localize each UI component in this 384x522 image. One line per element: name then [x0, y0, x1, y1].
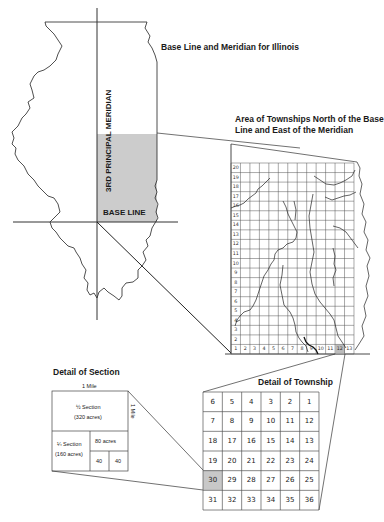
area-row-number: 19 — [231, 175, 240, 180]
area-row-number: 13 — [231, 232, 240, 237]
area-title-line2: Line and East of the Meridian — [235, 125, 353, 136]
area-row-number: 1 — [231, 346, 240, 351]
area-column-number: 2 — [240, 346, 249, 351]
section-cell: 6 — [203, 398, 222, 406]
eighty-acres-label: 80 acres — [95, 438, 116, 444]
section-side-label: 1 Mile — [130, 404, 136, 419]
base-line-label: BASE LINE — [103, 208, 146, 217]
section-cell: 8 — [222, 417, 241, 425]
area-row-number: 4 — [231, 318, 240, 323]
area-row-number: 17 — [231, 194, 240, 199]
section-cell: 32 — [222, 496, 241, 504]
area-row-number: 16 — [231, 203, 240, 208]
area-column-number: 10 — [316, 346, 325, 351]
section-cell: 16 — [242, 437, 261, 445]
section-cell: 5 — [222, 398, 241, 406]
section-cell: 4 — [242, 398, 261, 406]
area-column-number: 13 — [345, 346, 354, 351]
section-cell: 9 — [242, 417, 261, 425]
connector-line — [52, 471, 203, 490]
section-cell: 35 — [280, 496, 299, 504]
section-cell: 12 — [300, 417, 319, 425]
section-cell: 28 — [242, 476, 261, 484]
area-row-number: 18 — [231, 184, 240, 189]
section-cell: 30 — [203, 476, 222, 484]
quarter-section-acres: (160 acres) — [55, 451, 83, 457]
area-row-number: 15 — [231, 213, 240, 218]
area-row-number: 14 — [231, 222, 240, 227]
section-cell: 23 — [280, 457, 299, 465]
area-row-number: 7 — [231, 289, 240, 294]
area-row-number: 3 — [231, 327, 240, 332]
township-title: Detail of Township — [258, 377, 333, 388]
section-title: Detail of Section — [53, 367, 120, 378]
section-cell: 19 — [203, 457, 222, 465]
area-row-number: 2 — [231, 337, 240, 342]
area-column-number: 3 — [250, 346, 259, 351]
area-row-number: 8 — [231, 280, 240, 285]
area-row-number: 20 — [231, 165, 240, 170]
section-cell: 21 — [242, 457, 261, 465]
area-column-number: 8 — [297, 346, 306, 351]
township-detail-grid — [203, 392, 319, 510]
section-cell: 7 — [203, 417, 222, 425]
area-column-number: 7 — [288, 346, 297, 351]
forty-acres-b: 40 — [115, 458, 121, 464]
area-column-number: 4 — [259, 346, 268, 351]
section-cell: 2 — [280, 398, 299, 406]
section-cell: 33 — [242, 496, 261, 504]
area-column-number: 6 — [278, 346, 287, 351]
section-cell: 25 — [300, 476, 319, 484]
section-cell: 15 — [261, 437, 280, 445]
area-row-number: 12 — [231, 241, 240, 246]
area-column-number: 11 — [326, 346, 335, 351]
section-cell: 27 — [261, 476, 280, 484]
section-cell: 36 — [300, 496, 319, 504]
section-cell: 29 — [222, 476, 241, 484]
area-frame-top — [231, 144, 357, 162]
section-cell: 11 — [280, 417, 299, 425]
area-row-number: 6 — [231, 299, 240, 304]
section-top-label: 1 Mile — [82, 383, 97, 389]
section-cell: 1 — [300, 398, 319, 406]
section-cell: 13 — [300, 437, 319, 445]
area-row-number: 11 — [231, 251, 240, 256]
section-cell: 20 — [222, 457, 241, 465]
illinois-title: Base Line and Meridian for Illinois — [161, 42, 299, 53]
section-cell: 26 — [280, 476, 299, 484]
section-cell: 31 — [203, 496, 222, 504]
section-cell: 34 — [261, 496, 280, 504]
section-cell: 18 — [203, 437, 222, 445]
section-cell: 14 — [280, 437, 299, 445]
area-title-line1: Area of Townships North of the Base — [235, 114, 384, 125]
section-cell: 17 — [222, 437, 241, 445]
section-cell: 24 — [300, 457, 319, 465]
area-column-number: 5 — [269, 346, 278, 351]
connector-line — [97, 222, 231, 353]
section-cell: 10 — [261, 417, 280, 425]
half-section-label: ½ Section — [76, 404, 100, 410]
half-section-acres: (320 acres) — [74, 414, 102, 420]
quarter-section-label: ¼ Section — [57, 441, 81, 447]
forty-acres-a: 40 — [96, 458, 102, 464]
area-column-number: 9 — [307, 346, 316, 351]
area-row-number: 9 — [231, 270, 240, 275]
area-row-number: 5 — [231, 308, 240, 313]
area-row-number: 10 — [231, 261, 240, 266]
section-cell: 3 — [261, 398, 280, 406]
rivers — [231, 162, 370, 352]
section-cell: 22 — [261, 457, 280, 465]
connector-line — [128, 391, 203, 470]
area-column-number: 12 — [335, 346, 344, 351]
